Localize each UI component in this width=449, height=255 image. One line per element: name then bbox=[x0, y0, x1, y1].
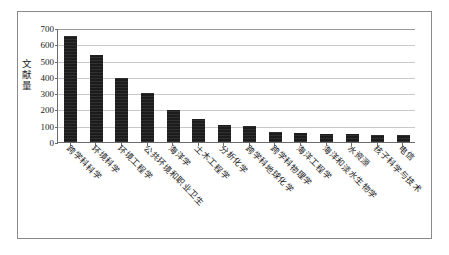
y-tick-label: 300 bbox=[41, 90, 55, 99]
x-axis-labels: 跨学科科学环境科学环境工程学公共环境和职业卫生海洋学土木工程学分析化学跨学科地球… bbox=[57, 143, 415, 239]
bar bbox=[167, 110, 180, 142]
y-axis-title: 文献量 bbox=[21, 58, 33, 91]
y-tick-label: 0 bbox=[50, 139, 55, 148]
bar bbox=[64, 36, 77, 142]
bar bbox=[90, 55, 103, 142]
x-axis-label: 电信 bbox=[397, 143, 417, 163]
bar bbox=[243, 126, 256, 142]
bar bbox=[141, 93, 154, 142]
y-tick-label: 700 bbox=[41, 25, 55, 34]
y-tick-label: 100 bbox=[41, 122, 55, 131]
y-tick-label: 200 bbox=[41, 106, 55, 115]
y-tick-label: 500 bbox=[41, 57, 55, 66]
bar bbox=[269, 132, 282, 142]
chart-figure: 文献量 0100200300400500600700 跨学科科学环境科学环境工程… bbox=[17, 11, 432, 239]
plot-area: 0100200300400500600700 bbox=[57, 29, 415, 143]
bar bbox=[192, 119, 205, 142]
bar bbox=[115, 78, 128, 142]
bar bbox=[320, 134, 333, 142]
bar bbox=[371, 135, 384, 142]
y-tick-label: 600 bbox=[41, 41, 55, 50]
bar bbox=[218, 125, 231, 142]
bar bbox=[294, 133, 307, 142]
bar bbox=[397, 135, 410, 142]
y-tick-label: 400 bbox=[41, 73, 55, 82]
bars-group bbox=[58, 29, 415, 142]
bar bbox=[346, 134, 359, 142]
